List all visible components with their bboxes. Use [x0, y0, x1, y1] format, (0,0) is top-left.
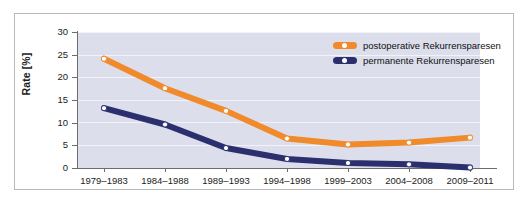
y-tick-mark [72, 77, 77, 78]
x-tick-label-6: 2004–2008 [374, 175, 444, 186]
legend-label-postoperative: postoperative Rekurrensparesen [363, 40, 501, 51]
y-tick-mark [72, 145, 77, 146]
gridline [78, 77, 480, 78]
legend-item-postoperative[interactable]: postoperative Rekurrensparesen [333, 39, 508, 52]
y-tick-mark [72, 32, 77, 33]
x-tick-label-2: 1984–1988 [130, 175, 200, 186]
x-tick-label-7: 2009–2011 [435, 175, 505, 186]
y-axis-title: Rate [%] [20, 34, 32, 114]
legend-swatch-orange-icon [333, 42, 357, 49]
gridline [78, 145, 480, 146]
y-tick-label-0: 0 [46, 163, 68, 173]
gridline [78, 100, 480, 101]
y-tick-mark [72, 55, 77, 56]
x-tick-label-4: 1994–1998 [252, 175, 322, 186]
gridline [78, 32, 480, 33]
x-tick-mark [409, 168, 410, 172]
y-tick-label-5: 5 [46, 140, 68, 150]
x-tick-mark [165, 168, 166, 172]
y-tick-mark [72, 123, 77, 124]
legend: postoperative Rekurrensparesen permanent… [333, 39, 508, 69]
y-tick-mark [72, 100, 77, 101]
y-tick-label-10: 10 [46, 118, 68, 128]
x-tick-mark [348, 168, 349, 172]
x-tick-mark [470, 168, 471, 172]
legend-swatch-navy-icon [333, 57, 357, 64]
y-tick-label-20: 20 [46, 72, 68, 82]
x-tick-mark [104, 168, 105, 172]
x-tick-label-1: 1979–1983 [69, 175, 139, 186]
y-tick-mark [72, 168, 77, 169]
gridline [78, 122, 480, 123]
x-tick-label-3: 1989–1993 [191, 175, 261, 186]
legend-label-permanente: permanente Rekurrensparesen [363, 55, 495, 66]
y-tick-label-15: 15 [46, 95, 68, 105]
y-tick-label-30: 30 [46, 27, 68, 37]
x-tick-label-5: 1999–2003 [313, 175, 383, 186]
legend-item-permanente[interactable]: permanente Rekurrensparesen [333, 54, 508, 67]
chart-figure: Rate [%] 30 25 20 15 10 5 0 1979–1983 19… [0, 0, 530, 205]
y-tick-label-25: 25 [46, 50, 68, 60]
y-axis-line [77, 31, 78, 169]
x-tick-mark [226, 168, 227, 172]
x-tick-mark [287, 168, 288, 172]
